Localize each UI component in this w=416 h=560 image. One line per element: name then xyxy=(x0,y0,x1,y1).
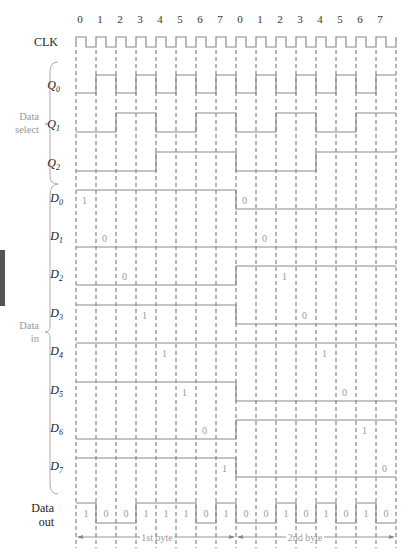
data-in-label-line1: Data xyxy=(19,320,39,331)
signal-q2: Q2 xyxy=(47,152,396,172)
timing-diagram: 0123456701234567 CLK Data select Q0Q1Q2 … xyxy=(0,0,416,560)
signal-d4: D411 xyxy=(49,343,396,360)
svg-text:0: 0 xyxy=(384,508,389,519)
svg-text:D4: D4 xyxy=(49,344,63,360)
svg-text:0: 0 xyxy=(237,13,243,25)
svg-text:1: 1 xyxy=(324,508,329,519)
svg-text:1: 1 xyxy=(182,387,187,398)
svg-text:0: 0 xyxy=(262,233,267,244)
svg-text:1: 1 xyxy=(284,508,289,519)
signal-d2: D201 xyxy=(49,266,396,285)
svg-text:3: 3 xyxy=(297,13,303,25)
svg-text:1: 1 xyxy=(144,508,149,519)
svg-text:2: 2 xyxy=(117,13,123,25)
svg-text:1: 1 xyxy=(257,13,263,25)
svg-text:D3: D3 xyxy=(49,306,63,322)
svg-text:1: 1 xyxy=(222,463,227,474)
svg-text:6: 6 xyxy=(357,13,363,25)
svg-text:4: 4 xyxy=(157,13,163,25)
svg-text:D6: D6 xyxy=(49,421,63,437)
svg-text:2: 2 xyxy=(277,13,283,25)
data-select-label-line2: select xyxy=(15,124,39,135)
svg-text:1: 1 xyxy=(364,508,369,519)
svg-text:1: 1 xyxy=(184,508,189,519)
signal-q0: Q0 xyxy=(47,75,396,94)
svg-text:1: 1 xyxy=(362,425,367,436)
svg-text:Q0: Q0 xyxy=(47,78,60,94)
data-in-label-line2: in xyxy=(31,333,40,344)
svg-text:0: 0 xyxy=(302,310,307,321)
svg-text:0: 0 xyxy=(264,508,269,519)
svg-text:0: 0 xyxy=(382,463,387,474)
svg-text:1: 1 xyxy=(142,310,147,321)
svg-text:0: 0 xyxy=(77,13,83,25)
svg-text:0: 0 xyxy=(122,271,127,282)
clock-tick-labels: 0123456701234567 xyxy=(77,13,383,25)
data-out-label-line2: out xyxy=(39,515,55,529)
svg-text:1: 1 xyxy=(322,348,327,359)
svg-text:5: 5 xyxy=(177,13,183,25)
signal-q1: Q1 xyxy=(47,113,396,133)
svg-text:D0: D0 xyxy=(49,191,63,207)
signal-d6: D601 xyxy=(49,420,396,439)
svg-text:0: 0 xyxy=(242,195,247,206)
data-signals: D010D100D201D310D411D510D601D710 xyxy=(49,190,396,477)
data-select-label-line1: Data xyxy=(19,111,39,122)
svg-text:D2: D2 xyxy=(49,267,63,283)
svg-text:0: 0 xyxy=(304,508,309,519)
svg-text:0: 0 xyxy=(344,508,349,519)
svg-text:D1: D1 xyxy=(49,229,63,245)
svg-text:1: 1 xyxy=(84,508,89,519)
signal-d0: D010 xyxy=(49,190,396,209)
svg-text:0: 0 xyxy=(202,425,207,436)
svg-text:7: 7 xyxy=(217,13,223,25)
clock-waveform xyxy=(76,37,396,47)
svg-text:1: 1 xyxy=(164,508,169,519)
svg-text:0: 0 xyxy=(124,508,129,519)
svg-text:7: 7 xyxy=(377,13,383,25)
svg-text:Q1: Q1 xyxy=(47,117,60,133)
first-byte-label: 1st byte xyxy=(141,532,173,543)
svg-text:1: 1 xyxy=(282,271,287,282)
svg-text:1: 1 xyxy=(97,13,103,25)
svg-text:3: 3 xyxy=(137,13,143,25)
svg-text:0: 0 xyxy=(342,387,347,398)
clk-label: CLK xyxy=(34,35,58,49)
signal-d7: D710 xyxy=(49,458,396,477)
svg-text:0: 0 xyxy=(102,233,107,244)
svg-text:1: 1 xyxy=(82,195,87,206)
svg-text:1: 1 xyxy=(224,508,229,519)
svg-text:D5: D5 xyxy=(49,383,63,399)
svg-text:6: 6 xyxy=(197,13,203,25)
signal-d5: D510 xyxy=(49,382,396,401)
svg-text:D7: D7 xyxy=(49,459,64,475)
select-signals: Q0Q1Q2 xyxy=(47,75,396,172)
svg-text:0: 0 xyxy=(244,508,249,519)
svg-text:0: 0 xyxy=(104,508,109,519)
svg-text:0: 0 xyxy=(204,508,209,519)
svg-text:1: 1 xyxy=(162,348,167,359)
svg-text:5: 5 xyxy=(337,13,343,25)
svg-text:4: 4 xyxy=(317,13,323,25)
signal-d3: D310 xyxy=(49,305,396,324)
second-byte-label: 2nd byte xyxy=(288,532,323,543)
signal-d1: D100 xyxy=(49,229,396,247)
data-out-label-line1: Data xyxy=(31,501,54,515)
svg-text:Q2: Q2 xyxy=(47,156,60,172)
